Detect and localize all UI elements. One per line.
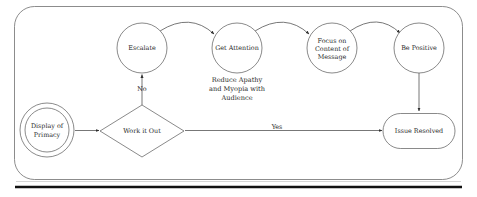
node-label-display-of-primacy-line-2: Primacy — [34, 131, 61, 139]
node-label-get-attention: Get Attention — [215, 44, 259, 52]
node-be-positive[interactable]: Be Positive — [394, 23, 444, 73]
flowchart-diagram: Display of Primacy Work it Out Escalate … — [0, 0, 477, 197]
node-escalate[interactable]: Escalate — [117, 23, 167, 73]
edge-focus-to-be-positive — [350, 22, 400, 33]
node-label-focus-line-1: Focus on — [318, 37, 347, 45]
flowchart-canvas: Display of Primacy Work it Out Escalate … — [0, 0, 477, 197]
edge-label-yes: Yes — [271, 123, 283, 131]
node-focus-on-content-of-message[interactable]: Focus on Content of Message — [307, 23, 357, 73]
node-label-work-it-out: Work it Out — [123, 127, 161, 135]
caption-line-2: and Myopia with — [209, 85, 266, 93]
caption-get-attention: Reduce Apathy and Myopia with Audience — [209, 76, 266, 102]
node-get-attention[interactable]: Get Attention — [212, 23, 262, 73]
node-label-display-of-primacy-line-1: Display of — [31, 122, 64, 130]
node-display-of-primacy[interactable]: Display of Primacy — [20, 103, 74, 157]
node-issue-resolved[interactable]: Issue Resolved — [383, 114, 455, 149]
node-label-be-positive: Be Positive — [401, 44, 437, 52]
edge-get-attention-to-focus — [255, 22, 309, 34]
node-label-escalate: Escalate — [128, 44, 156, 52]
caption-line-1: Reduce Apathy — [212, 76, 263, 84]
node-work-it-out[interactable]: Work it Out — [100, 105, 184, 157]
node-label-focus-line-2: Content of — [315, 45, 350, 53]
edge-escalate-to-get-attention — [160, 22, 214, 34]
caption-line-3: Audience — [220, 94, 252, 102]
node-label-issue-resolved: Issue Resolved — [395, 127, 443, 135]
edge-label-no: No — [137, 85, 147, 93]
node-label-focus-line-3: Message — [318, 53, 347, 61]
